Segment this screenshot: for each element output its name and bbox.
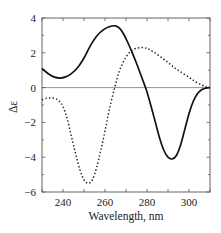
y-ticks — [42, 18, 210, 192]
x-axis-label: Wavelength, nm — [88, 210, 163, 223]
y-tick-label: −2 — [24, 116, 36, 128]
y-tick-label: 2 — [31, 47, 37, 59]
y-tick-label: −6 — [24, 186, 36, 198]
y-tick-label: 0 — [31, 82, 37, 94]
y-tick-label: −4 — [24, 151, 36, 163]
y-tick-label: 4 — [31, 12, 37, 24]
dotted-series-line — [42, 47, 210, 183]
solid-series-line — [42, 26, 210, 159]
x-tick-labels: 240260280300 — [55, 196, 198, 208]
y-tick-labels: 420−2−4−6 — [24, 12, 36, 198]
cd-spectrum-chart: 240260280300 420−2−4−6 Wavelength, nm Δε — [0, 0, 221, 233]
x-minor-ticks — [42, 18, 210, 192]
x-tick-label: 240 — [55, 196, 72, 208]
y-axis-label: Δε — [7, 101, 19, 113]
x-tick-label: 280 — [139, 196, 156, 208]
plot-frame — [42, 18, 210, 192]
x-tick-label: 300 — [181, 196, 198, 208]
x-tick-label: 260 — [97, 196, 114, 208]
